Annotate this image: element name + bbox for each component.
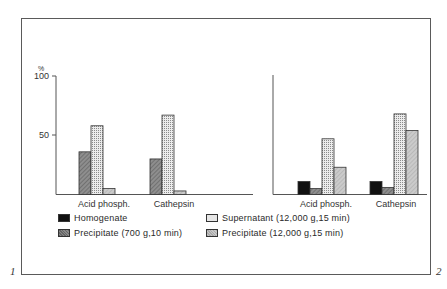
- right-chart: Acid phosph. Cathepsin: [273, 75, 427, 209]
- bar-acid-phosph-precipitate-12-000-g-15-min: [334, 167, 346, 194]
- legend-item-precip12000: Precipitate (12,000 g,15 min): [206, 228, 343, 238]
- legend-label-precip700: Precipitate (700 g,10 min): [74, 228, 182, 238]
- swatch-precip700: [58, 229, 70, 237]
- left-chart: % 100 50 Acid phosph. Cathepsin: [34, 65, 253, 209]
- legend-label-precip12000: Precipitate (12,000 g,15 min): [222, 228, 343, 238]
- right-bars: [298, 114, 418, 195]
- bar-cathepsin-precipitate-700-g-10-min: [150, 159, 162, 195]
- tick-label-100: 100: [34, 71, 49, 81]
- bar-acid-phosph-precipitate-700-g-10-min: [79, 152, 91, 195]
- bar-acid-phosph-homogenate: [298, 181, 310, 194]
- legend-label-supernatant: Supernatant (12,000 g,15 min): [222, 213, 350, 223]
- bar-cathepsin-precipitate-12-000-g-15-min: [406, 131, 418, 195]
- bar-acid-phosph-supernatant-12-000-g-15-min: [322, 139, 334, 195]
- swatch-precip12000: [206, 229, 218, 237]
- bar-cathepsin-precipitate-700-g-10-min: [382, 187, 394, 194]
- bar-acid-phosph-precipitate-700-g-10-min: [310, 189, 322, 195]
- bar-cathepsin-supernatant-12-000-g-15-min: [394, 114, 406, 195]
- bar-acid-phosph-supernatant-12-000-g-15-min: [91, 126, 103, 195]
- left-bars: [79, 115, 186, 194]
- left-category-acid-phosph: Acid phosph.: [78, 199, 130, 209]
- left-category-cathepsin: Cathepsin: [154, 199, 195, 209]
- legend-item-supernatant: Supernatant (12,000 g,15 min): [206, 213, 350, 223]
- right-category-acid-phosph: Acid phosph.: [300, 199, 352, 209]
- legend-item-homogenate: Homogenate: [58, 213, 128, 223]
- bar-cathepsin-supernatant-12-000-g-15-min: [162, 115, 174, 194]
- charts-canvas: % 100 50 Acid phosph. Cathepsin Acid pho…: [0, 0, 447, 289]
- bar-cathepsin-homogenate: [370, 181, 382, 194]
- swatch-supernatant: [206, 214, 218, 222]
- legend-item-precip700: Precipitate (700 g,10 min): [58, 228, 182, 238]
- legend-label-homogenate: Homogenate: [74, 213, 128, 223]
- swatch-homogenate: [58, 214, 70, 222]
- bar-acid-phosph-precipitate-12-000-g-15-min: [103, 189, 115, 195]
- right-category-cathepsin: Cathepsin: [376, 199, 417, 209]
- tick-label-50: 50: [39, 130, 49, 140]
- bar-cathepsin-precipitate-12-000-g-15-min: [174, 191, 186, 195]
